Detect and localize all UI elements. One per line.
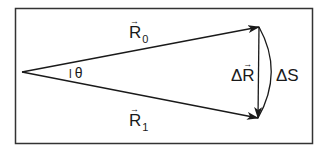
arc-delta-s (258, 27, 271, 118)
label-delta-r: Δ→R (231, 67, 255, 84)
label-delta-s: ΔS (276, 67, 299, 84)
vector-arrow-icon: → (130, 105, 139, 114)
vector-arrow-icon: → (130, 17, 139, 26)
vector-delta-r (258, 27, 259, 118)
frame-border (16, 9, 313, 144)
vector-arrow-icon: → (243, 60, 252, 69)
label-r0: →R0 (129, 24, 148, 41)
angle-tick: l (69, 67, 72, 81)
label-theta: lθ (69, 66, 82, 80)
label-r1: →R1 (129, 112, 148, 129)
